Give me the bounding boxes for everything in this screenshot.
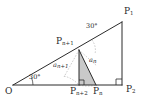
vertex-label-Pn2: Pn+2: [70, 87, 88, 96]
vertex-label-O-text: O: [5, 86, 12, 96]
vertex-label-P2-sub: 2: [132, 88, 136, 94]
vertex-label-P1: P1: [124, 7, 134, 16]
vertex-label-P1-sub: 1: [130, 10, 134, 16]
angle-label-upper: 30°: [86, 23, 98, 30]
vertex-label-Pn1: Pn+1: [56, 37, 74, 46]
vertex-label-Pn1-sub: n+1: [62, 40, 74, 46]
angle-label-alpha-n1-sub: n+1: [57, 63, 69, 69]
angle-label-alpha-n: an: [89, 57, 96, 64]
angle-label-upper-text: 30°: [86, 22, 98, 30]
vertex-label-Pn-sub: n: [99, 90, 103, 96]
angle-label-alpha-n-plus-1: an+1: [53, 62, 69, 69]
vertex-label-Pn2-sub: n+2: [76, 90, 88, 96]
angle-label-O-text: 30°: [29, 73, 41, 81]
vertex-label-P2: P2: [126, 85, 136, 94]
vertex-label-O: O: [5, 87, 12, 96]
vertex-label-Pn: Pn: [93, 87, 103, 96]
right-angle-mark-P2: [116, 79, 122, 85]
angle-label-alpha-n-sub: n: [93, 58, 97, 64]
angle-label-O: 30°: [29, 74, 41, 81]
